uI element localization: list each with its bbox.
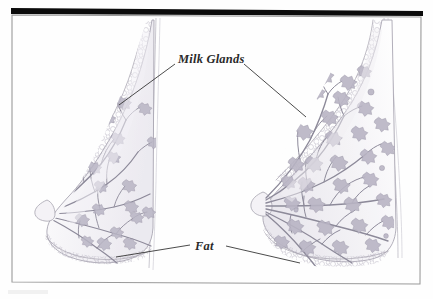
figure-root: Milk Glands Fat (0, 0, 433, 299)
scan-smudge (8, 290, 48, 294)
breast-anatomy-figure: Milk Glands Fat (0, 0, 433, 299)
label-fat: Fat (194, 239, 214, 253)
label-milk-glands: Milk Glands (177, 52, 244, 66)
